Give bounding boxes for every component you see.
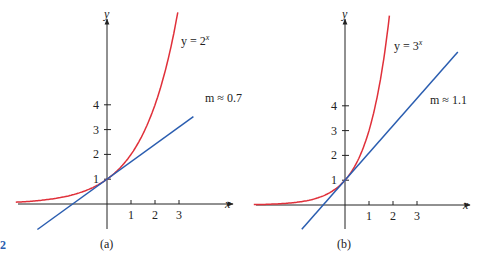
y-tick-label: 3 <box>93 123 99 137</box>
x-tick-label: 1 <box>128 208 134 222</box>
y-tick-label: 3 <box>331 124 337 138</box>
x-tick-label: 3 <box>414 209 420 223</box>
curve-label: y = 3x <box>394 38 423 53</box>
panel-a-chart: 123 1234 x y y = 2x m ≈ 0.7 (a) <box>16 7 242 251</box>
x-tick-label: 1 <box>366 209 372 223</box>
exponential-curve-3x <box>254 16 390 205</box>
y-tick-label: 4 <box>93 98 99 112</box>
slope-label: m ≈ 1.1 <box>430 93 467 107</box>
x-axis-label: x <box>224 197 231 211</box>
tangent-line <box>302 52 458 229</box>
figure-marker: 2 <box>0 238 6 252</box>
curve-label: y = 2x <box>181 33 210 48</box>
panel-caption: (b) <box>337 237 351 251</box>
x-tick-label: 3 <box>176 208 182 222</box>
y-tick-label: 4 <box>331 99 337 113</box>
panel-b-chart: 123 1234 x y y = 3x m ≈ 1.1 (b) <box>254 7 470 251</box>
y-axis-label: y <box>341 7 348 21</box>
tangent-line <box>37 117 193 230</box>
x-axis-label: x <box>462 198 469 212</box>
x-tick-label: 2 <box>390 209 396 223</box>
y-tick-label: 1 <box>331 173 337 187</box>
y-axis-label: y <box>103 7 110 21</box>
y-tick-label: 2 <box>93 147 99 161</box>
x-tick-label: 2 <box>152 208 158 222</box>
y-tick-label: 2 <box>331 148 337 162</box>
slope-label: m ≈ 0.7 <box>205 91 242 105</box>
panel-caption: (a) <box>100 237 113 251</box>
figure: 123 1234 x y y = 2x m ≈ 0.7 (a) 123 1234… <box>0 0 477 264</box>
